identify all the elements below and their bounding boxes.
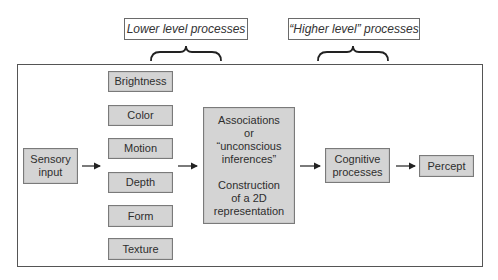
flow-arrows [0,0,498,280]
